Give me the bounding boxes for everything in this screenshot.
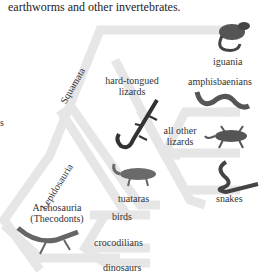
tuatara-icon [110,162,162,190]
amphisbaenian-icon [193,88,253,112]
phylogeny-diagram: earthworms and other invertebrates. s Le… [0,0,274,274]
taxon-crocodilians: crocodilians [94,237,143,248]
taxon-snakes: snakes [216,193,243,204]
gecko-lizard-icon [203,124,253,152]
taxon-dinosaurs: dinosaurs [103,262,141,273]
taxon-all-other-line1: all other [160,125,200,136]
taxon-all-other-lizards: all other lizards [160,125,200,147]
thecodont-icon [16,222,82,258]
taxon-hard-tongued-line1: hard-tongued [100,75,164,86]
taxon-birds: birds [112,211,132,222]
taxon-hard-tongued-lizards: hard-tongued lizards [100,75,164,97]
taxon-amphisbaenians: amphisbaenians [188,76,252,87]
snake-icon [212,158,264,194]
taxon-tuataras: tuataras [118,193,149,204]
left-fragment: s [0,117,4,128]
taxon-all-other-line2: lizards [160,136,200,147]
taxon-iguania: iguania [213,56,242,67]
hard-tongued-lizard-icon [113,96,163,156]
clade-label-archosauria: Archosauria (Thecodonts) [28,202,86,224]
iguana-icon [210,18,252,54]
clade-archosauria-line1: Archosauria [28,202,86,213]
caption-text: earthworms and other invertebrates. [8,0,181,15]
